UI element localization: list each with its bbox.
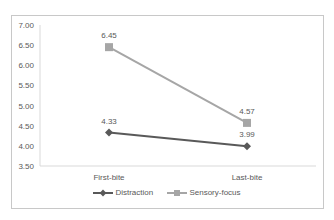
y-tick-label: 5.50 bbox=[18, 81, 34, 90]
series-distraction: 4.333.99 bbox=[101, 117, 255, 151]
data-label: 3.99 bbox=[239, 130, 255, 139]
diamond-marker-icon[interactable] bbox=[243, 142, 251, 150]
legend-item-sensory-focus[interactable]: Sensory-focus bbox=[167, 188, 240, 197]
data-label: 4.57 bbox=[239, 107, 255, 116]
y-tick-label: 6.50 bbox=[18, 41, 34, 50]
y-tick-label: 3.50 bbox=[18, 162, 34, 171]
y-tick-label: 7.00 bbox=[18, 21, 34, 30]
line-chart: 7.006.506.005.505.004.504.003.50 First-b… bbox=[0, 0, 334, 220]
legend-label: Distraction bbox=[115, 188, 153, 197]
diamond-marker-icon bbox=[93, 189, 113, 197]
square-marker-icon[interactable] bbox=[243, 119, 251, 127]
series-sensory-focus: 6.454.57 bbox=[101, 31, 255, 127]
x-category-label: First-bite bbox=[93, 173, 125, 182]
y-tick-label: 4.50 bbox=[18, 122, 34, 131]
legend: Distraction Sensory-focus bbox=[0, 188, 334, 199]
x-category-label: Last-bite bbox=[232, 173, 263, 182]
square-marker-icon bbox=[167, 189, 187, 197]
legend-item-distraction[interactable]: Distraction bbox=[93, 188, 153, 197]
data-label: 4.33 bbox=[101, 117, 117, 126]
y-tick-label: 5.00 bbox=[18, 102, 34, 111]
y-tick-label: 6.00 bbox=[18, 61, 34, 70]
x-axis: First-biteLast-bite bbox=[40, 166, 316, 182]
data-label: 6.45 bbox=[101, 31, 117, 40]
diamond-marker-icon[interactable] bbox=[105, 129, 113, 137]
legend-label: Sensory-focus bbox=[189, 188, 240, 197]
y-tick-label: 4.00 bbox=[18, 142, 34, 151]
y-axis: 7.006.506.005.505.004.504.003.50 bbox=[18, 21, 40, 171]
series-group: 4.333.996.454.57 bbox=[101, 31, 255, 150]
square-marker-icon[interactable] bbox=[105, 43, 113, 51]
